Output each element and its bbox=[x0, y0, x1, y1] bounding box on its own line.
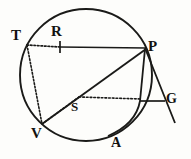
point-label-p: P bbox=[148, 39, 157, 54]
point-label-v: V bbox=[31, 126, 42, 141]
main-circle bbox=[20, 9, 152, 141]
point-label-t: T bbox=[11, 28, 21, 43]
secant-line-p-down bbox=[140, 49, 145, 101]
chord-rp-line bbox=[60, 47, 146, 48]
dotted-segment-tr bbox=[27, 45, 60, 47]
point-label-g: G bbox=[166, 92, 177, 106]
point-label-r: R bbox=[51, 24, 62, 39]
point-label-a: A bbox=[111, 136, 121, 150]
dotted-line-s-to-right-edge bbox=[79, 97, 141, 99]
point-label-s: S bbox=[71, 100, 78, 113]
figure-canvas bbox=[0, 0, 191, 159]
geometry-figure: T R P G S V A bbox=[0, 0, 191, 159]
dotted-chord-tv bbox=[27, 45, 42, 124]
tangent-line-p-to-g bbox=[145, 48, 175, 123]
